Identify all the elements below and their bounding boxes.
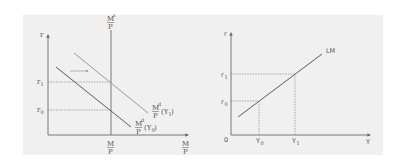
money-supply-label: M s P [107,12,116,31]
lm-curve-label: LM [326,47,335,55]
lm-y1-label: Y 1 [291,137,300,146]
money-market-x-axis-label: M P [182,140,189,156]
money-demand-y1-label: M d P (Y 1 ) [152,101,174,120]
money-demand-curve-y0 [56,67,131,127]
money-market-r1-label: r 1 [37,78,44,87]
svg-text:Y: Y [291,137,296,145]
svg-text:): ) [154,124,157,132]
svg-text:d: d [141,117,145,123]
lm-y-axis-label: r [224,30,227,38]
svg-text:1: 1 [225,74,228,80]
svg-text:): ) [171,108,174,116]
svg-text:P: P [108,23,113,31]
lm-curve-chart: r Y 0 LM r 1 r 0 Y 0 Y [221,30,370,146]
svg-text:P: P [108,148,113,156]
svg-text:P: P [153,112,158,120]
svg-text:1: 1 [297,140,300,146]
money-supply-bottom-label: M P [107,140,114,156]
lm-curve-line [238,54,322,117]
svg-text:0: 0 [225,101,228,107]
money-market-chart: r M P M s P M P [37,12,189,156]
lm-y0-label: Y 0 [255,137,264,146]
svg-text:d: d [158,101,162,107]
svg-text:P: P [183,148,188,156]
lm-origin-label: 0 [224,136,228,144]
svg-text:0: 0 [261,140,264,146]
svg-text:s: s [113,12,116,18]
figure-page: r M P M s P M P [0,0,409,165]
money-market-y-axis-label: r [40,31,44,39]
money-market-r0-label: r 0 [37,106,44,115]
lm-x-axis-label: Y [365,138,370,146]
svg-text:M: M [182,140,189,148]
economics-diagram: r M P M s P M P [0,0,409,165]
svg-text:M: M [107,140,114,148]
svg-text:P: P [136,128,141,136]
svg-text:1: 1 [41,81,44,87]
svg-text:0: 0 [41,109,44,115]
svg-text:Y: Y [255,137,260,145]
lm-r0-label: r 0 [221,98,228,107]
lm-r1-label: r 1 [221,71,228,80]
